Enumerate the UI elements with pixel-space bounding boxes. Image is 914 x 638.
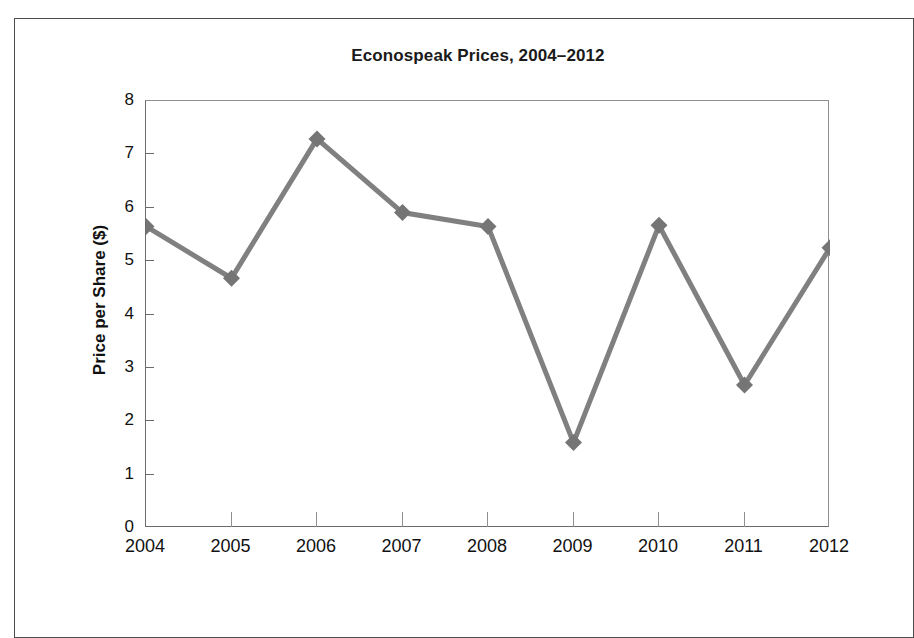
y-axis-tick-labels: 012345678 [96,100,134,527]
x-axis-tick-label: 2009 [528,536,618,557]
data-series-svg [146,101,830,528]
y-axis-tick-label: 8 [98,90,134,110]
y-axis-tick-label: 5 [98,250,134,270]
x-axis-tick-mark [231,512,232,527]
y-axis-tick-label: 6 [98,197,134,217]
x-axis-tick-label: 2011 [699,536,789,557]
data-point-marker [565,434,582,451]
y-axis-tick-label: 4 [98,304,134,324]
y-axis-tick-mark [145,260,154,261]
x-axis-tick-mark [402,512,403,527]
x-axis-tick-label: 2012 [784,536,874,557]
y-axis-tick-label: 7 [98,143,134,163]
x-axis-tick-mark [573,512,574,527]
x-axis-tick-mark [744,512,745,527]
y-axis-tick-label: 0 [98,517,134,537]
x-axis-tick-label: 2008 [442,536,532,557]
x-axis-tick-label: 2004 [100,536,190,557]
y-axis-tick-mark [145,314,154,315]
series-line [146,139,830,443]
plot-area [145,100,829,527]
x-axis-tick-label: 2010 [613,536,703,557]
x-axis-tick-mark [658,512,659,527]
data-point-marker [480,218,497,235]
chart-title: Econospeak Prices, 2004–2012 [120,46,836,66]
x-axis-tick-label: 2005 [186,536,276,557]
y-axis-tick-label: 3 [98,357,134,377]
y-axis-tick-mark [145,420,154,421]
y-axis-tick-mark [145,474,154,475]
y-axis-tick-label: 1 [98,464,134,484]
x-axis-tick-label: 2006 [271,536,361,557]
x-axis-tick-label: 2007 [357,536,447,557]
y-axis-tick-mark [145,153,154,154]
x-axis-tick-mark [316,512,317,527]
y-axis-tick-mark [145,207,154,208]
x-axis-tick-mark [487,512,488,527]
y-axis-tick-mark [145,367,154,368]
y-axis-tick-label: 2 [98,410,134,430]
